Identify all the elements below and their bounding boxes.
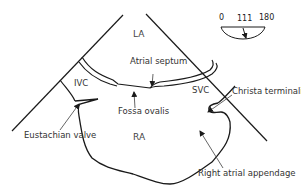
label-ivc: IVC	[74, 79, 88, 88]
label-fossa-ovalis: Fossa ovalis	[118, 107, 169, 116]
angle-min: 0	[219, 14, 224, 22]
atrial-septum-pointer	[152, 74, 153, 86]
angle-needle	[243, 28, 246, 38]
label-la: LA	[133, 30, 144, 39]
label-svc: SVC	[192, 86, 209, 95]
label-christa-terminalis: Christa terminalis	[232, 87, 301, 96]
angle-value: 111	[237, 15, 252, 23]
label-right-atrial-appendage: Right atrial appendage	[198, 169, 296, 178]
label-atrial-septum: Atrial septum	[130, 57, 187, 66]
angle-max: 180	[259, 14, 274, 22]
label-ra: RA	[133, 133, 145, 142]
angle-indicator	[221, 27, 265, 39]
sector-left-edge	[12, 15, 123, 131]
label-eustachian-valve: Eustachian valve	[24, 131, 96, 140]
eustachian-valve-pointer	[60, 104, 79, 130]
ivc-wall	[60, 80, 75, 101]
christa-terminalis-pointer	[208, 95, 232, 112]
